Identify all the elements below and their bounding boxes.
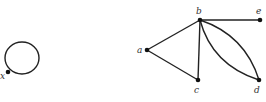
graph-diagram: x a b c d e (0, 0, 266, 102)
vertex-b (198, 18, 203, 23)
edge-b-c (198, 20, 200, 80)
loop-graph: x (0, 42, 39, 81)
multigraph: a b c d e (137, 6, 262, 95)
vertex-label-b: b (196, 6, 202, 16)
edge-b-d-lower (200, 20, 259, 80)
vertex-e (258, 18, 263, 23)
vertex-label-a: a (137, 45, 142, 55)
edge-a-b (147, 20, 200, 50)
vertex-label-c: c (194, 85, 199, 95)
edge-a-c (147, 50, 198, 80)
vertex-label-d: d (254, 85, 260, 95)
edge-b-d-upper (200, 20, 259, 80)
vertex-label-x: x (0, 71, 5, 81)
loop-edge-x (5, 42, 39, 74)
vertex-d (257, 78, 262, 83)
vertex-label-e: e (256, 6, 261, 16)
vertex-x (6, 70, 11, 75)
vertex-a (145, 48, 150, 53)
vertex-c (196, 78, 201, 83)
